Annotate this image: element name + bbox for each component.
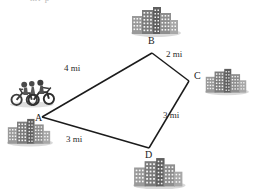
city-buildings-d-icon xyxy=(133,158,186,189)
vertex-label-b: B xyxy=(148,36,155,46)
vertex-label-d: D xyxy=(145,150,152,160)
city-buildings-c-icon xyxy=(205,69,249,95)
edge-label-da: 3 mi xyxy=(66,135,82,144)
vertex-label-a: A xyxy=(35,113,42,123)
edge-a-b xyxy=(42,53,152,117)
diagram-svg xyxy=(0,0,254,189)
motorcyclists-icon xyxy=(10,80,54,108)
city-buildings-a-icon xyxy=(7,119,53,147)
edge-label-ab: 4 mi xyxy=(64,64,80,73)
edge-d-a xyxy=(42,117,149,148)
edge-label-bc: 2 mi xyxy=(166,50,182,59)
figure-canvas: mi p xyxy=(0,0,254,189)
city-buildings-b-icon xyxy=(131,7,181,37)
edge-label-cd: 3 mi xyxy=(163,111,179,120)
vertex-label-c: C xyxy=(194,71,201,81)
